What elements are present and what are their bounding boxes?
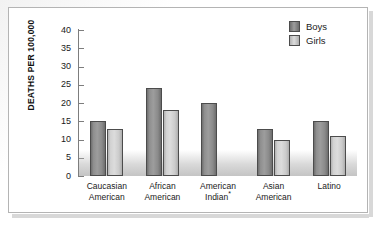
footnote-asterisk: * [228, 190, 231, 197]
y-axis-tick-label: 5 [49, 153, 71, 162]
bar-girls[interactable] [330, 136, 346, 176]
y-axis-tick-label: 25 [49, 80, 71, 89]
bar-girls[interactable] [274, 140, 290, 177]
boys-swatch [289, 21, 300, 32]
figure-drop-shadow-right [369, 11, 373, 217]
chart-legend: BoysGirls [289, 21, 327, 49]
y-axis-tick-label: 30 [49, 62, 71, 71]
bar-group [135, 88, 191, 176]
legend-item-boys[interactable]: Boys [289, 21, 327, 32]
bar-boys[interactable] [146, 88, 162, 176]
x-axis-category-label: Latino [294, 181, 364, 192]
bar-girls[interactable] [163, 110, 179, 176]
y-axis-tick-label: 15 [49, 117, 71, 126]
bar-group [190, 103, 246, 176]
bar-girls[interactable] [107, 129, 123, 176]
y-axis-tick-label: 35 [49, 44, 71, 53]
bar-boys[interactable] [90, 121, 106, 176]
girls-swatch [289, 35, 300, 46]
y-axis-tick-label: 20 [49, 99, 71, 108]
bar-group [246, 129, 302, 176]
figure-drop-shadow-bottom [12, 214, 369, 218]
y-axis-tick-label: 40 [49, 26, 71, 35]
legend-item-label: Boys [306, 22, 327, 32]
bar-group [79, 121, 135, 176]
bar-boys[interactable] [257, 129, 273, 176]
legend-item-girls[interactable]: Girls [289, 35, 327, 46]
y-axis-tick-mark [79, 176, 84, 177]
bar-boys[interactable] [313, 121, 329, 176]
plot-area [79, 30, 357, 176]
y-axis-title: DEATHS PER 100,000 [26, 5, 36, 125]
bar-group [301, 121, 357, 176]
legend-item-label: Girls [306, 36, 326, 46]
bar-chart-figure: 0510152025303540 DEATHS PER 100,000 Cauc… [0, 0, 377, 228]
bar-boys[interactable] [201, 103, 217, 176]
y-axis-tick-label: 10 [49, 135, 71, 144]
y-axis-tick-label: 0 [49, 172, 71, 181]
